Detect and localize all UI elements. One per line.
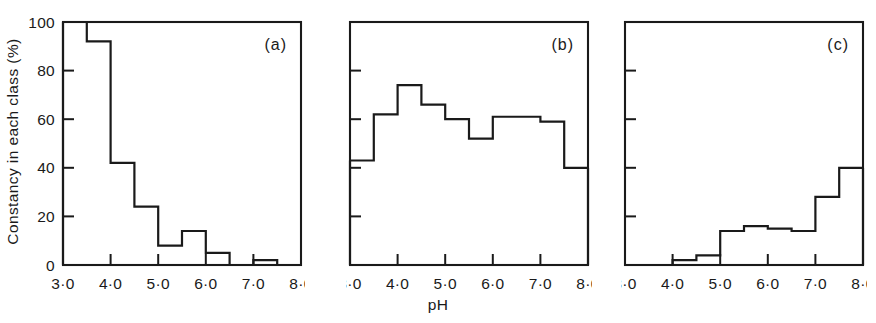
x-tick-label: 6·0	[194, 275, 217, 292]
x-tick-label: 8·0	[289, 275, 305, 292]
x-tick-label: 7·0	[242, 275, 265, 292]
x-axis-label: pH	[0, 296, 876, 314]
x-tick-label: 4·0	[386, 275, 409, 292]
histogram-step-outline	[63, 22, 301, 265]
y-tick-label: 100	[28, 18, 55, 31]
plot-frame	[63, 22, 301, 265]
y-tick-label: 80	[37, 62, 55, 79]
plot-frame	[350, 22, 588, 265]
histogram-step-outline	[350, 85, 588, 168]
x-tick-label: 5·0	[147, 275, 170, 292]
figure-constancy-vs-ph: Constancy in each class (%) 100806040200…	[0, 0, 876, 323]
x-tick-label: 8·0	[851, 275, 867, 292]
panel-tag: (c)	[827, 36, 849, 53]
x-tick-label: 5·0	[709, 275, 732, 292]
x-tick-label: 5·0	[434, 275, 457, 292]
panel-tag: (b)	[551, 36, 574, 53]
chart-panel-b: 3·04·05·06·07·08·0(b)	[346, 18, 592, 303]
panel-tag: (a)	[264, 36, 287, 53]
x-tick-label: 8·0	[576, 275, 592, 292]
x-tick-label: 3·0	[346, 275, 362, 292]
y-tick-label: 40	[37, 159, 55, 176]
y-tick-label: 0	[46, 257, 55, 274]
x-tick-label: 4·0	[99, 275, 122, 292]
y-tick-label: 60	[37, 111, 55, 128]
x-tick-label: 3·0	[51, 275, 74, 292]
y-tick-label: 20	[37, 208, 55, 225]
x-tick-label: 7·0	[804, 275, 827, 292]
x-tick-label: 6·0	[756, 275, 779, 292]
histogram-step-outline	[625, 168, 863, 265]
x-tick-label: 7·0	[529, 275, 552, 292]
chart-panel-a: 1008060402003·04·05·06·07·08·0(a)	[23, 18, 305, 303]
x-tick-label: 6·0	[481, 275, 504, 292]
chart-panel-c: 3·04·05·06·07·08·0(c)	[621, 18, 867, 303]
x-tick-label: 4·0	[661, 275, 684, 292]
x-tick-label: 3·0	[621, 275, 637, 292]
